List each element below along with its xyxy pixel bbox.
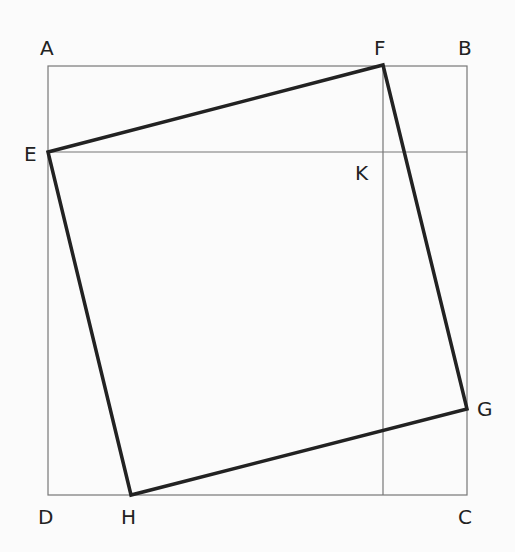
label-k: K: [355, 161, 369, 185]
geometry-diagram: A F B E K G D H C: [0, 0, 515, 552]
label-f: F: [374, 36, 386, 60]
inner-square-efgh: [48, 65, 467, 495]
label-a: A: [40, 36, 54, 60]
label-e: E: [24, 142, 37, 166]
label-h: H: [121, 505, 136, 529]
label-c: C: [458, 505, 472, 529]
label-b: B: [458, 36, 472, 60]
outer-square-abcd: [48, 66, 467, 495]
label-g: G: [477, 397, 493, 421]
label-d: D: [38, 505, 53, 529]
